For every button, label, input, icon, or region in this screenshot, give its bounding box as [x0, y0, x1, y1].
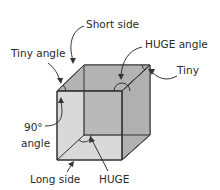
- cube: [57, 65, 150, 160]
- tiny-arrow: [152, 72, 177, 79]
- label-angle: angle: [21, 137, 50, 149]
- label-tiny: Tiny: [176, 64, 199, 76]
- label-huge-angle: HUGE angle: [145, 38, 208, 50]
- label-tiny-angle: Tiny angle: [10, 47, 65, 59]
- tiny-angle-arrow: [48, 63, 60, 80]
- label-long-side: Long side: [30, 173, 80, 185]
- cube-front-face: [57, 91, 122, 160]
- short-side-arrow: [71, 26, 84, 60]
- label-huge: HUGE: [99, 173, 129, 185]
- label-90-degree: 90°: [24, 121, 43, 133]
- cube-diagram: Short side Tiny angle HUGE angle Tiny 90…: [0, 0, 220, 190]
- label-short-side: Short side: [86, 18, 139, 30]
